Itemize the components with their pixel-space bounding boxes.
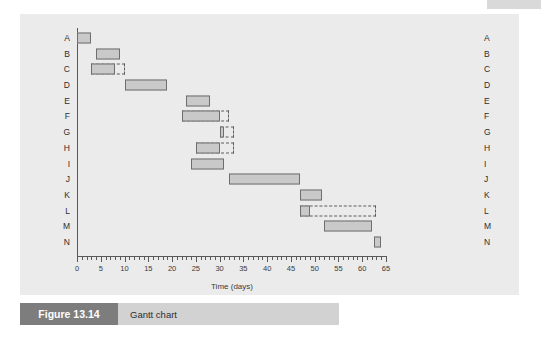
row-label-left-k: K [64, 190, 70, 200]
x-tick-label: 10 [120, 264, 128, 273]
x-tick-minor [87, 257, 88, 260]
page-edge-artifact [487, 0, 541, 9]
x-tick-label: 60 [358, 264, 366, 273]
gantt-bar-d [125, 80, 168, 91]
x-tick-minor [253, 257, 254, 260]
x-tick-label: 55 [334, 264, 342, 273]
x-tick-major [267, 257, 268, 262]
x-tick-major [243, 257, 244, 262]
x-tick-minor [353, 257, 354, 260]
row-label-left-j: J [66, 174, 70, 184]
figure-root: 05101520253035404550556065 AABBCCDDEEFFG… [0, 0, 541, 361]
row-label-left-c: C [64, 64, 70, 74]
x-tick-minor [329, 257, 330, 260]
gantt-bar-e [186, 95, 210, 106]
x-tick-minor [305, 257, 306, 260]
x-tick-minor [272, 257, 273, 260]
gantt-bar-n [374, 237, 381, 248]
gantt-float-l [300, 205, 376, 216]
x-tick-major [220, 257, 221, 262]
gantt-bar-l [300, 205, 310, 216]
x-tick-minor [191, 257, 192, 260]
x-tick-label: 25 [192, 264, 200, 273]
figure-caption: Gantt chart [130, 303, 177, 325]
row-label-right-c: C [484, 64, 490, 74]
x-tick-label: 65 [382, 264, 390, 273]
x-tick-label: 35 [239, 264, 247, 273]
x-tick-minor [91, 257, 92, 260]
x-tick-label: 50 [311, 264, 319, 273]
gantt-chart: 05101520253035404550556065 AABBCCDDEEFFG… [20, 14, 519, 295]
x-tick-minor [367, 257, 368, 260]
x-tick-minor [277, 257, 278, 260]
x-tick-minor [115, 257, 116, 260]
x-tick-minor [381, 257, 382, 260]
y-axis-line [77, 28, 78, 256]
x-tick-minor [258, 257, 259, 260]
x-tick-minor [215, 257, 216, 260]
row-label-right-n: N [484, 237, 490, 247]
x-tick-major [291, 257, 292, 262]
figure-number-badge: Figure 13.14 [20, 303, 118, 325]
x-tick-minor [153, 257, 154, 260]
x-axis-title: Time (days) [77, 282, 387, 291]
gantt-bar-a [77, 33, 91, 44]
x-tick-minor [158, 257, 159, 260]
x-tick-minor [106, 257, 107, 260]
x-tick-minor [281, 257, 282, 260]
row-label-right-k: K [484, 190, 490, 200]
x-tick-minor [224, 257, 225, 260]
gantt-bar-i [191, 158, 224, 169]
x-tick-minor [372, 257, 373, 260]
x-tick-minor [319, 257, 320, 260]
row-label-right-h: H [484, 143, 490, 153]
row-label-right-d: D [484, 80, 490, 90]
plot-area: 05101520253035404550556065 AABBCCDDEEFFG… [77, 28, 386, 256]
x-tick-minor [134, 257, 135, 260]
row-label-right-i: I [484, 159, 486, 169]
row-label-left-i: I [68, 159, 70, 169]
row-label-left-g: G [63, 127, 70, 137]
x-tick-label: 45 [287, 264, 295, 273]
row-label-right-j: J [484, 174, 488, 184]
x-tick-minor [205, 257, 206, 260]
gantt-bar-h [196, 142, 220, 153]
row-label-left-e: E [64, 96, 70, 106]
x-tick-minor [324, 257, 325, 260]
x-tick-minor [229, 257, 230, 260]
x-tick-label: 5 [99, 264, 103, 273]
row-label-right-b: B [484, 49, 490, 59]
row-label-right-m: M [484, 221, 491, 231]
x-tick-major [362, 257, 363, 262]
x-tick-minor [186, 257, 187, 260]
row-label-left-a: A [64, 33, 70, 43]
x-tick-major [101, 257, 102, 262]
row-label-left-l: L [65, 206, 70, 216]
gantt-bar-j [229, 174, 300, 185]
x-tick-label: 30 [215, 264, 223, 273]
x-tick-major [315, 257, 316, 262]
gantt-bar-g [220, 127, 225, 138]
x-tick-minor [334, 257, 335, 260]
row-label-left-b: B [64, 49, 70, 59]
row-label-right-f: F [484, 111, 489, 121]
x-tick-major [196, 257, 197, 262]
gantt-bar-m [324, 221, 372, 232]
x-tick-minor [110, 257, 111, 260]
row-label-left-h: H [64, 143, 70, 153]
x-tick-major [172, 257, 173, 262]
x-tick-minor [139, 257, 140, 260]
x-tick-label: 15 [144, 264, 152, 273]
x-tick-minor [120, 257, 121, 260]
x-tick-major [338, 257, 339, 262]
x-tick-minor [348, 257, 349, 260]
x-tick-minor [343, 257, 344, 260]
row-label-right-a: A [484, 33, 490, 43]
figure-panel: 05101520253035404550556065 AABBCCDDEEFFG… [20, 14, 519, 295]
x-tick-minor [376, 257, 377, 260]
row-label-right-l: L [484, 206, 489, 216]
x-tick-label: 40 [263, 264, 271, 273]
x-tick-minor [144, 257, 145, 260]
gantt-bar-b [96, 48, 120, 59]
x-tick-minor [296, 257, 297, 260]
